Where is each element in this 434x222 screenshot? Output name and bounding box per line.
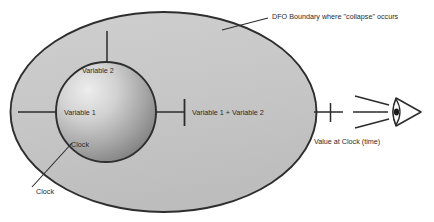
dfo-collapse-diagram: Variable 2 Variable 1 Clock Variable 1 +… [0, 0, 434, 222]
dfo-boundary-callout-label: DFO Boundary where "collapse" occurs [272, 12, 399, 21]
eye-icon [393, 98, 421, 126]
clock-inner-label: Clock [71, 140, 89, 149]
sight-lines-group [353, 96, 389, 128]
sight-line-bottom [355, 119, 389, 128]
clock-callout-label: Clock [36, 187, 54, 196]
diagram-canvas: Variable 2 Variable 1 Clock Variable 1 +… [0, 0, 434, 222]
sight-line-top [355, 96, 389, 105]
variable1-label: Variable 1 [64, 108, 96, 117]
variable2-label: Variable 2 [82, 66, 114, 75]
sum-label: Variable 1 + Variable 2 [192, 108, 264, 117]
output-value-label: Value at Clock (time) [314, 137, 380, 146]
